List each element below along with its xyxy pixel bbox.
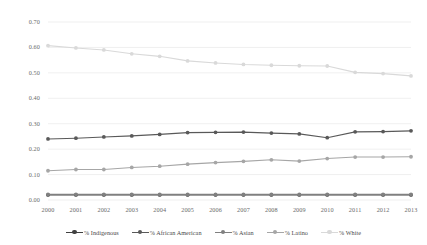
- data-point: [214, 193, 218, 197]
- x-tick-label: 2007: [228, 206, 258, 213]
- y-tick-label: 0.30: [14, 120, 40, 127]
- x-tick-label: 2012: [368, 206, 398, 213]
- data-point: [325, 136, 329, 140]
- data-point: [381, 130, 385, 134]
- data-point: [409, 129, 413, 133]
- data-point: [102, 135, 106, 139]
- legend-marker: [273, 230, 278, 235]
- data-point: [74, 46, 78, 50]
- x-tick-label: 2008: [256, 206, 286, 213]
- data-point: [214, 161, 218, 165]
- data-point: [102, 48, 106, 52]
- data-point: [242, 130, 246, 134]
- x-tick-label: 2003: [117, 206, 147, 213]
- data-point: [74, 136, 78, 140]
- x-tick-label: 2002: [89, 206, 119, 213]
- legend-label: % White: [339, 229, 361, 236]
- data-series-group: [46, 44, 413, 197]
- data-point: [74, 168, 78, 172]
- legend-swatch-icon: [66, 229, 83, 236]
- data-point: [46, 169, 50, 173]
- data-point: [46, 44, 50, 48]
- legend-item[interactable]: % African American: [132, 229, 202, 236]
- chart-legend: % Indigenous% African American% Asian% L…: [0, 224, 427, 240]
- data-point: [269, 158, 273, 162]
- data-point: [381, 155, 385, 159]
- data-point: [242, 63, 246, 67]
- data-point: [381, 72, 385, 76]
- data-point: [158, 132, 162, 136]
- data-point: [102, 193, 106, 197]
- data-point: [186, 59, 190, 63]
- data-point: [353, 155, 357, 159]
- x-tick-label: 2005: [173, 206, 203, 213]
- series-latino: [46, 155, 413, 173]
- data-point: [130, 134, 134, 138]
- data-point: [74, 193, 78, 197]
- x-tick-label: 2004: [145, 206, 175, 213]
- data-point: [158, 164, 162, 168]
- data-point: [409, 155, 413, 159]
- y-tick-label: 0.00: [14, 196, 40, 203]
- y-tick-label: 0.20: [14, 145, 40, 152]
- data-point: [353, 193, 357, 197]
- data-point: [186, 193, 190, 197]
- legend-swatch-icon: [267, 229, 284, 236]
- data-point: [381, 193, 385, 197]
- data-point: [186, 131, 190, 135]
- data-point: [269, 63, 273, 67]
- data-point: [214, 130, 218, 134]
- legend-item[interactable]: % Latino: [267, 229, 308, 236]
- data-point: [130, 52, 134, 56]
- data-point: [158, 54, 162, 58]
- y-tick-label: 0.70: [14, 18, 40, 25]
- data-point: [269, 131, 273, 135]
- data-point: [269, 193, 273, 197]
- x-tick-label: 2009: [284, 206, 314, 213]
- legend-marker: [327, 230, 332, 235]
- legend-swatch-icon: [321, 229, 338, 236]
- data-point: [325, 193, 329, 197]
- series-asian: [46, 193, 413, 197]
- data-point: [353, 70, 357, 74]
- x-tick-label: 2013: [396, 206, 426, 213]
- data-point: [409, 193, 413, 197]
- data-point: [325, 157, 329, 161]
- legend-label: % Indigenous: [84, 229, 119, 236]
- data-point: [46, 193, 50, 197]
- legend-item[interactable]: % Indigenous: [66, 229, 119, 236]
- x-tick-label: 2011: [340, 206, 370, 213]
- y-tick-label: 0.10: [14, 171, 40, 178]
- data-point: [214, 61, 218, 65]
- legend-swatch-icon: [215, 229, 232, 236]
- legend-item[interactable]: % Asian: [215, 229, 254, 236]
- legend-marker: [138, 230, 143, 235]
- legend-item[interactable]: % White: [321, 229, 361, 236]
- data-point: [242, 159, 246, 163]
- data-point: [130, 166, 134, 170]
- data-point: [297, 159, 301, 163]
- x-tick-label: 2010: [312, 206, 342, 213]
- x-tick-label: 2000: [33, 206, 63, 213]
- y-tick-label: 0.50: [14, 69, 40, 76]
- legend-label: % African American: [150, 229, 202, 236]
- legend-marker: [221, 230, 226, 235]
- legend-marker: [72, 230, 77, 235]
- data-point: [186, 162, 190, 166]
- data-point: [102, 168, 106, 172]
- data-point: [353, 130, 357, 134]
- y-tick-label: 0.40: [14, 94, 40, 101]
- legend-label: % Latino: [285, 229, 308, 236]
- data-point: [325, 64, 329, 68]
- data-point: [297, 132, 301, 136]
- line-chart: 0.000.100.200.300.400.500.600.70 2000200…: [0, 0, 427, 245]
- series-africanamerican: [46, 129, 413, 141]
- y-tick-label: 0.60: [14, 43, 40, 50]
- data-point: [158, 193, 162, 197]
- data-point: [409, 74, 413, 78]
- data-point: [297, 193, 301, 197]
- data-point: [46, 137, 50, 141]
- x-tick-label: 2006: [201, 206, 231, 213]
- data-point: [130, 193, 134, 197]
- legend-swatch-icon: [132, 229, 149, 236]
